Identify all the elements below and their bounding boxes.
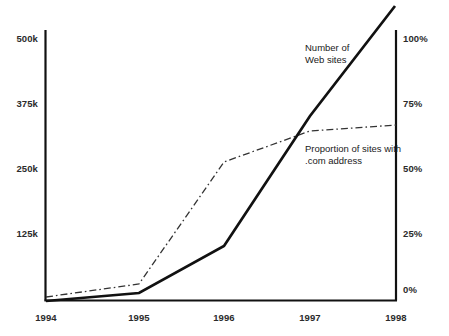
y-axis-right-tick-100pct: 100% <box>403 33 447 44</box>
y-axis-right-tick-25pct: 25% <box>403 228 447 239</box>
y-axis-left-tick-500k: 500k <box>0 33 38 44</box>
annotation-web-sites-line-2: Web sites <box>305 54 349 66</box>
annotation-com-share-line-1: Proportion of sites with <box>305 143 401 155</box>
x-axis-tick-1997: 1997 <box>290 312 330 323</box>
y-axis-left-tick-375k: 375k <box>0 98 38 109</box>
x-axis-tick-1996: 1996 <box>204 312 244 323</box>
annotation-com-share: Proportion of sites with .com address <box>305 143 401 166</box>
chart-plot-area <box>0 0 449 336</box>
x-axis-tick-1994: 1994 <box>26 312 66 323</box>
annotation-com-share-line-2: .com address <box>305 155 401 167</box>
y-axis-right-tick-50pct: 50% <box>403 163 447 174</box>
y-axis-right-tick-75pct: 75% <box>403 98 447 109</box>
y-axis-left-tick-125k: 125k <box>0 228 38 239</box>
annotation-web-sites: Number of Web sites <box>305 42 349 65</box>
chart-container: 500k 375k 250k 125k 100% 75% 50% 25% 0% … <box>0 0 449 336</box>
annotation-web-sites-line-1: Number of <box>305 42 349 54</box>
y-axis-right-tick-0pct: 0% <box>403 284 447 295</box>
x-axis-tick-1998: 1998 <box>376 312 416 323</box>
y-axis-left-tick-250k: 250k <box>0 163 38 174</box>
x-axis-tick-1995: 1995 <box>119 312 159 323</box>
